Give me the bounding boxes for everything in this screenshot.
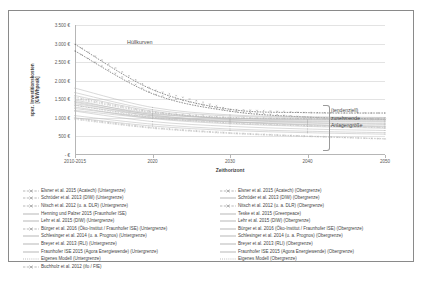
data-point-marker xyxy=(152,121,153,122)
legend-item[interactable]: Elsner et al. 2015 (Acatech) (Obergrenze… xyxy=(220,187,413,195)
data-point-marker xyxy=(152,126,153,127)
annotation-anlagengroesse: (tendenziell) zunehmende Anlagengröße xyxy=(331,107,411,130)
legend-item[interactable]: Bürger et al. 2016 (Öko-Institut / Fraun… xyxy=(220,225,413,233)
data-point-marker xyxy=(162,91,163,92)
legend-swatch-icon xyxy=(220,241,236,247)
legend-swatch-icon xyxy=(23,233,39,239)
data-point-marker xyxy=(230,116,231,117)
legend-swatch-icon xyxy=(220,211,236,217)
data-point-marker xyxy=(108,104,109,105)
legend-item-label: Eigenes Modell (Obergrenze) xyxy=(238,256,297,262)
plot-area: 3.500 €3.000 €2.500 €2.000 €1.500 €1.000… xyxy=(75,25,385,155)
data-point-marker xyxy=(250,112,251,113)
legend-item[interactable]: Schröder et al. 2013 (DIW) (Obergrenze) xyxy=(220,195,413,203)
legend-item-label: Nitsch et al. 2012 (u. a. DLR) (Obergren… xyxy=(238,203,324,209)
legend-item-label: Schlesinger et al. 2014 (u. a. Prognos) … xyxy=(238,233,343,239)
data-point-marker xyxy=(128,75,129,76)
legend-item[interactable]: Teske et al. 2015 (Greenpeace) xyxy=(220,210,413,218)
data-point-marker xyxy=(216,105,217,106)
legend-swatch-icon xyxy=(23,211,39,217)
legend-item[interactable]: Schröder et al. 2013 (DIW) (Untergrenze) xyxy=(23,195,216,203)
annotation-line-1: (tendenziell) xyxy=(331,107,411,115)
data-point-marker xyxy=(283,111,284,112)
annotation-bracket xyxy=(323,105,330,151)
legend-item[interactable]: Buchholz et al. 2012 (ifo / FfE) xyxy=(23,263,216,271)
legend-item[interactable]: Fraunhofer ISE 2015 (Agora Energiewende)… xyxy=(23,248,216,256)
legend-item[interactable]: Breyer et al. 2013 (RLI) (Untergrenze) xyxy=(23,240,216,248)
data-point-marker xyxy=(108,69,109,70)
legend-item[interactable]: Lehr et al. 2015 (DIW) (Obergrenze) xyxy=(220,217,413,225)
x-tick-label: 2050 xyxy=(380,159,390,164)
chart-legend: Elsner et al. 2015 (Acatech) (Untergrenz… xyxy=(23,187,413,271)
legend-item-label: Lehr et al. 2015 (DIW) (Untergrenze) xyxy=(41,218,114,224)
data-point-marker xyxy=(263,110,264,111)
data-point-marker xyxy=(75,88,76,89)
legend-swatch-icon xyxy=(220,226,236,232)
y-tick-label: - € xyxy=(65,153,70,158)
data-point-marker xyxy=(189,130,190,131)
legend-item[interactable]: Henning und Palzer 2015 (Fraunhofer ISE) xyxy=(23,210,216,218)
data-point-marker xyxy=(216,107,217,108)
data-point-marker xyxy=(230,130,231,131)
legend-item-label: Schröder et al. 2013 (DIW) (Obergrenze) xyxy=(238,195,320,201)
data-point-marker xyxy=(152,118,153,119)
data-point-marker xyxy=(307,123,308,124)
y-tick-label: 3.000 € xyxy=(55,41,70,46)
legend-item-label: Lehr et al. 2015 (DIW) (Obergrenze) xyxy=(238,218,310,224)
data-point-marker xyxy=(307,126,308,127)
x-tick-label: 2040 xyxy=(302,159,312,164)
data-point-marker xyxy=(276,114,277,115)
x-axis-title: Zeithorizont xyxy=(216,167,245,173)
data-point-marker xyxy=(196,100,197,101)
legend-swatch-icon xyxy=(220,256,236,262)
legend-swatch-icon xyxy=(23,188,39,194)
x-tick-mark xyxy=(75,155,76,158)
legend-item[interactable]: Schlesinger et al. 2014 (u. a. Prognos) … xyxy=(220,233,413,241)
legend-item[interactable]: Nitsch et al. 2012 (u. a. DLR) (Untergre… xyxy=(23,202,216,210)
legend-item-label: Buchholz et al. 2012 (ifo / FfE) xyxy=(41,264,102,270)
legend-item-label: Schlesinger et al. 2014 (u. a. Prognos) … xyxy=(41,233,147,239)
legend-item[interactable]: Eigenes Modell (Obergrenze) xyxy=(220,255,413,263)
legend-item[interactable]: Eigenes Modell (Untergrenze) xyxy=(23,255,216,263)
legend-item[interactable]: Elsner et al. 2015 (Acatech) (Untergrenz… xyxy=(23,187,216,195)
data-point-marker xyxy=(152,124,153,125)
legend-item[interactable]: Lehr et al. 2015 (DIW) (Untergrenze) xyxy=(23,217,216,225)
data-point-marker xyxy=(230,126,231,127)
legend-item[interactable]: Breyer et al. 2013 (RLI) (Obergrenze) xyxy=(220,240,413,248)
data-point-marker xyxy=(230,118,231,119)
data-point-marker xyxy=(152,111,153,112)
legend-item-label: Breyer et al. 2013 (RLI) (Untergrenze) xyxy=(41,241,117,247)
x-tick-mark xyxy=(385,155,386,158)
data-point-marker xyxy=(169,97,170,98)
legend-swatch-icon xyxy=(220,218,236,224)
legend-item[interactable]: Nitsch et al. 2012 (u. a. DLR) (Obergren… xyxy=(220,202,413,210)
legend-item[interactable]: Bürger et al. 2016 (Öko-Institut / Fraun… xyxy=(23,225,216,233)
data-point-marker xyxy=(256,110,257,111)
data-point-marker xyxy=(175,129,176,130)
data-point-marker xyxy=(230,121,231,122)
x-tick-mark xyxy=(230,155,231,158)
data-point-marker xyxy=(230,114,231,115)
data-curves xyxy=(75,25,385,155)
legend-item-label: Eigenes Modell (Untergrenze) xyxy=(41,256,101,262)
data-point-marker xyxy=(385,132,386,133)
legend-item[interactable]: Schlesinger et al. 2014 (u. a. Prognos) … xyxy=(23,233,216,241)
data-point-marker xyxy=(209,103,210,104)
data-point-marker xyxy=(230,119,231,120)
data-point-marker xyxy=(307,120,308,121)
legend-item[interactable]: Fraunhofer ISE 2015 (Agora Energiewende)… xyxy=(220,248,413,256)
legend-swatch-icon xyxy=(220,249,236,255)
annotation-line-2: zunehmende xyxy=(331,115,411,123)
y-axis-title: spez. Investitionskosten [€/kWhpeak] xyxy=(30,42,41,138)
data-point-marker xyxy=(101,65,102,66)
legend-swatch-icon xyxy=(23,195,39,201)
y-tick-label: 500 € xyxy=(59,134,71,139)
data-point-marker xyxy=(236,111,237,112)
legend-swatch-icon xyxy=(23,241,39,247)
legend-item-label: Bürger et al. 2016 (Öko-Institut / Fraun… xyxy=(238,226,363,232)
legend-item-label: Elsner et al. 2015 (Acatech) (Untergrenz… xyxy=(41,188,126,194)
data-point-marker xyxy=(75,115,76,116)
data-point-marker xyxy=(307,117,308,118)
data-point-marker xyxy=(202,102,203,103)
legend-swatch-icon xyxy=(220,188,236,194)
